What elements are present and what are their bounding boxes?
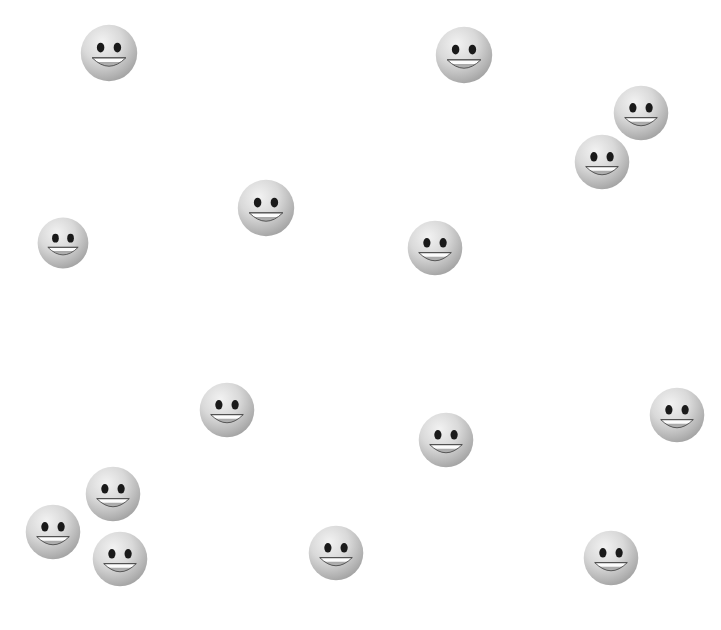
smiley-face-icon bbox=[417, 411, 475, 469]
smiley-face-icon bbox=[307, 524, 365, 582]
smiley-face-icon bbox=[434, 25, 494, 85]
smiley-face-icon bbox=[573, 133, 631, 191]
smiley-face-icon bbox=[406, 219, 464, 277]
smiley-scatter-canvas bbox=[0, 0, 721, 630]
smiley-face-icon bbox=[198, 381, 256, 439]
smiley-face-icon bbox=[79, 23, 139, 83]
smiley-face-icon bbox=[91, 530, 149, 588]
smiley-face-icon bbox=[36, 216, 90, 270]
smiley-face-icon bbox=[648, 386, 706, 444]
smiley-face-icon bbox=[84, 465, 142, 523]
smiley-face-icon bbox=[236, 178, 296, 238]
smiley-face-icon bbox=[582, 529, 640, 587]
smiley-face-icon bbox=[24, 503, 82, 561]
